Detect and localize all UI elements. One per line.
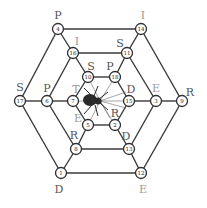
edge-14-9 <box>141 29 182 101</box>
node-number: 14 <box>138 26 145 32</box>
node-number: 16 <box>70 50 77 56</box>
node-6[interactable]: 6 <box>42 96 53 107</box>
letter-label-4: P <box>54 9 62 22</box>
node-10[interactable]: 10 <box>83 72 94 83</box>
node-number: 2 <box>113 122 117 128</box>
edge-6-16 <box>47 53 73 101</box>
letter-label-14: I <box>141 9 145 22</box>
letter-label-3: E <box>152 82 160 95</box>
letter-label-11: S <box>116 37 124 50</box>
node-4[interactable]: 4 <box>53 24 64 35</box>
letter-label-18: P <box>106 60 114 73</box>
letter-label-15: D <box>127 83 136 96</box>
hexagon-letter-diagram: 414912117161131386101815257 PIREDSISEDRP… <box>0 0 207 208</box>
node-number: 7 <box>71 98 75 104</box>
node-18[interactable]: 18 <box>110 72 121 83</box>
node-number: 18 <box>112 74 119 80</box>
node-number: 13 <box>126 146 133 152</box>
node-15[interactable]: 15 <box>124 96 135 107</box>
letter-label-7: T <box>72 83 80 96</box>
node-number: 10 <box>85 74 92 80</box>
node-8[interactable]: 8 <box>71 144 82 155</box>
node-13[interactable]: 13 <box>124 144 135 155</box>
edge-3-13 <box>129 101 156 149</box>
node-7[interactable]: 7 <box>68 96 79 107</box>
letter-label-6: P <box>43 82 51 95</box>
node-number: 12 <box>138 170 145 176</box>
letter-label-8: R <box>70 129 79 142</box>
node-3[interactable]: 3 <box>151 96 162 107</box>
node-14[interactable]: 14 <box>136 24 147 35</box>
node-5[interactable]: 5 <box>83 120 94 131</box>
node-number: 6 <box>45 98 49 104</box>
letter-label-1: D <box>55 183 64 196</box>
node-number: 11 <box>124 50 131 56</box>
node-1[interactable]: 1 <box>56 168 67 179</box>
letter-label-9: R <box>186 86 195 99</box>
node-number: 9 <box>180 98 184 104</box>
node-number: 8 <box>74 146 78 152</box>
node-16[interactable]: 16 <box>68 48 79 59</box>
node-12[interactable]: 12 <box>136 168 147 179</box>
letter-label-13: D <box>122 130 131 143</box>
letter-label-17: S <box>16 81 24 94</box>
edge-1-17 <box>20 101 61 173</box>
edge-9-12 <box>141 101 182 173</box>
node-number: 1 <box>59 170 63 176</box>
node-number: 4 <box>56 26 60 32</box>
node-number: 3 <box>154 98 158 104</box>
node-number: 17 <box>17 98 24 104</box>
node-number: 15 <box>126 98 133 104</box>
edge-8-6 <box>47 101 76 149</box>
letter-label-16: I <box>75 35 79 48</box>
letter-label-5: E <box>74 112 82 125</box>
node-17[interactable]: 17 <box>15 96 26 107</box>
node-number: 5 <box>86 122 90 128</box>
letter-label-10: S <box>87 60 95 73</box>
node-2[interactable]: 2 <box>110 120 121 131</box>
letter-label-12: E <box>139 183 147 196</box>
letter-label-2: R <box>111 107 120 120</box>
